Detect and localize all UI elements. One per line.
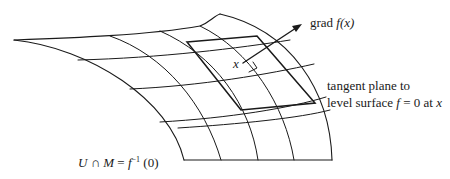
gradient-label-prefix: grad (310, 15, 336, 30)
surface-top-edge (14, 14, 220, 40)
level-set-lhs: U ∩ M (78, 155, 114, 170)
grid-meridian (110, 36, 221, 160)
gradient-label: grad f(x) (310, 16, 354, 29)
gradient-arrowhead (292, 24, 302, 32)
tangent-label-text: level surface (327, 95, 396, 110)
level-set-label: U ∩ M = f−1 (0) (78, 156, 159, 169)
tangent-plane-label-line1: tangent plane to (327, 79, 410, 92)
level-set-equals: = (114, 155, 128, 170)
tangent-plane-label-line2: level surface f = 0 at x (327, 96, 442, 109)
point-x-label: x (233, 57, 239, 70)
level-set-arg: (0) (140, 155, 158, 170)
right-angle-marker (249, 62, 257, 72)
tangent-label-eq: = 0 at (400, 95, 436, 110)
gradient-label-function: f(x) (336, 15, 354, 30)
surface-left-edge (14, 40, 184, 160)
level-surface-diagram: grad f(x) x tangent plane to level surfa… (0, 0, 450, 179)
tangent-plane (187, 36, 315, 110)
grid-parallel (78, 40, 290, 60)
grid-meridian (160, 31, 258, 160)
tangent-label-x: x (436, 95, 442, 110)
level-set-inverse: −1 (132, 155, 141, 164)
surface-right-edge (220, 14, 332, 160)
